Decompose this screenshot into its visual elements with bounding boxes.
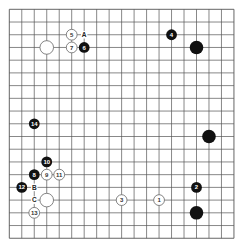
black-stone-4[interactable]: 4: [166, 29, 177, 40]
black-stone-8[interactable]: 8: [29, 169, 40, 180]
white-stone-1[interactable]: 1: [154, 195, 165, 206]
board-mark-b[interactable]: B: [31, 184, 37, 192]
white-stone[interactable]: [40, 41, 54, 55]
white-stone-7[interactable]: 7: [66, 42, 77, 53]
white-stone-5[interactable]: 5: [66, 29, 77, 40]
black-stone[interactable]: [190, 206, 204, 220]
black-stone-disc: [190, 206, 204, 220]
white-stone-3[interactable]: 3: [116, 195, 127, 206]
black-stone-disc: [202, 130, 216, 144]
black-stone-6[interactable]: 6: [79, 42, 90, 53]
black-stone-14[interactable]: 14: [29, 118, 40, 129]
move-number: 10: [43, 159, 50, 165]
black-stone[interactable]: [202, 130, 216, 144]
move-number: 14: [31, 121, 38, 127]
black-stone-12[interactable]: 12: [16, 182, 27, 193]
move-number: 13: [31, 210, 38, 216]
go-board-grid[interactable]: ABC5764141089111223113: [0, 0, 242, 252]
board-mark-a[interactable]: A: [81, 31, 87, 39]
move-number: 12: [18, 184, 25, 190]
white-stone-13[interactable]: 13: [29, 207, 40, 218]
black-stone[interactable]: [190, 41, 204, 55]
mark-label: A: [82, 31, 87, 38]
black-stone-disc: [190, 41, 204, 55]
black-stone-2[interactable]: 2: [191, 182, 202, 193]
white-stone[interactable]: [40, 193, 54, 207]
white-stone-disc: [40, 41, 54, 55]
go-board[interactable]: ABC5764141089111223113: [0, 0, 242, 252]
move-number: 11: [56, 172, 63, 178]
white-stone-disc: [40, 193, 54, 207]
mark-label: C: [32, 196, 37, 203]
board-mark-c[interactable]: C: [31, 196, 37, 204]
mark-label: B: [32, 184, 37, 191]
black-stone-10[interactable]: 10: [41, 157, 52, 168]
white-stone-9[interactable]: 9: [41, 169, 52, 180]
white-stone-11[interactable]: 11: [54, 169, 65, 180]
